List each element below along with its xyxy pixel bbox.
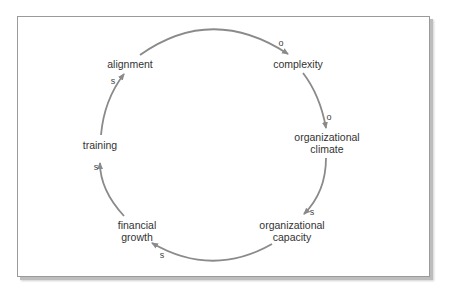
link-climate-capacity — [304, 158, 326, 214]
node-climate-line2: climate — [294, 143, 359, 155]
link-capacity-financial — [152, 243, 272, 261]
node-climate-line1: organizational — [294, 131, 359, 143]
node-financial-growth: financial growth — [118, 219, 157, 243]
node-training: training — [83, 139, 117, 151]
polarity-capacity-financial: s — [160, 250, 165, 260]
node-alignment: alignment — [107, 58, 153, 70]
polarity-financial-training: s — [94, 162, 99, 172]
node-complexity: complexity — [273, 58, 323, 70]
link-financial-training — [100, 163, 124, 216]
node-financial-line1: financial — [118, 219, 157, 231]
node-capacity-line2: capacity — [259, 231, 324, 243]
node-capacity-line1: organizational — [259, 219, 324, 231]
polarity-alignment-complexity: o — [278, 38, 283, 48]
node-organizational-capacity: organizational capacity — [259, 219, 324, 243]
link-alignment-complexity — [140, 29, 288, 55]
link-complexity-climate — [303, 73, 326, 128]
polarity-climate-capacity: s — [310, 207, 315, 217]
causal-loop-arrows — [0, 0, 449, 295]
node-financial-line2: growth — [118, 231, 157, 243]
polarity-training-alignment: s — [111, 76, 116, 86]
node-organizational-climate: organizational climate — [294, 131, 359, 155]
polarity-complexity-climate: o — [326, 112, 331, 122]
